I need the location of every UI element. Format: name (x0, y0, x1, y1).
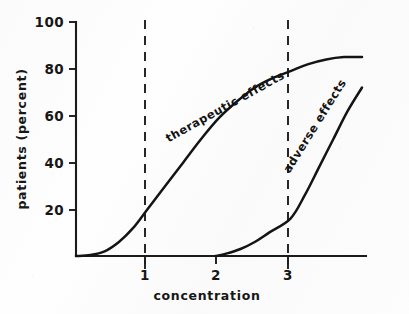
y-tick-label-40: 40 (44, 155, 64, 171)
chart-plot: 100 80 60 40 20 1 2 3 t (0, 0, 409, 314)
data-curves-group (76, 57, 362, 256)
curve-therapeutic-effects (76, 57, 362, 256)
y-tick-label-20: 20 (44, 202, 64, 218)
curve-labels-group: therapeutic effects adverse effects (163, 68, 349, 175)
x-tick-label-1: 1 (140, 267, 150, 283)
y-tick-label-60: 60 (44, 108, 64, 124)
y-axis-tick-labels: 100 80 60 40 20 (35, 14, 64, 218)
curve-label-therapeutic-effects: therapeutic effects (163, 68, 287, 145)
x-tick-label-2: 2 (211, 267, 221, 283)
y-axis-title: patients (percent) (14, 68, 29, 209)
axes-group (76, 22, 366, 256)
y-tick-label-80: 80 (44, 61, 64, 77)
x-tick-label-3: 3 (283, 267, 293, 283)
x-axis-ticks (145, 256, 288, 264)
x-axis-title: concentration (153, 288, 260, 303)
x-axis-tick-labels: 1 2 3 (140, 267, 293, 283)
figure-container: 100 80 60 40 20 1 2 3 t (0, 0, 409, 314)
y-tick-label-100: 100 (35, 14, 64, 30)
